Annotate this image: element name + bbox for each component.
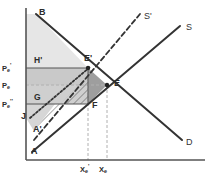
point-E-prime-marker	[86, 66, 90, 70]
supply-label: S	[186, 23, 192, 32]
quantity-tick-xe-label: Xe	[99, 164, 107, 173]
shaded-regions-group	[26, 14, 107, 131]
supply-demand-figure	[0, 0, 215, 190]
demand-label: D	[186, 138, 193, 147]
price-tick-pe-label: Pe	[2, 80, 10, 89]
point-A-prime-label: A'	[33, 125, 42, 134]
point-B-label: B	[39, 8, 46, 17]
point-F-label: F	[92, 101, 98, 110]
point-E-prime-label: E'	[84, 54, 92, 63]
point-J-label: J	[21, 112, 26, 121]
price-tick-pe-dprime-label: Pe''	[2, 99, 13, 108]
diagram-canvas: S'SDBEE'FAA'JH'GPe'PePe''Xe'Xe	[0, 0, 215, 190]
point-A-label: A	[31, 147, 38, 156]
point-E-marker	[105, 83, 109, 87]
supply-shift-label: S'	[144, 12, 152, 21]
region-H-prime: H'	[34, 56, 42, 65]
quantity-tick-xe-prime-label: Xe'	[80, 164, 89, 173]
price-tick-pe-prime-label: Pe'	[2, 63, 11, 72]
region-G: G	[34, 93, 41, 102]
point-E-label: E	[114, 79, 120, 88]
